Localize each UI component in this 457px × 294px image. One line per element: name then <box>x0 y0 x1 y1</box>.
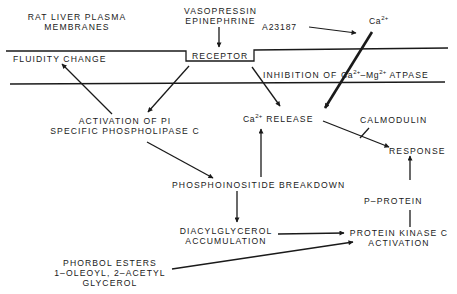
diagram-title: RAT LIVER PLASMA MEMBRANES <box>22 12 132 32</box>
inhibition-prefix: INHIBITION OF <box>263 70 341 80</box>
arrow-ionophore-to-calcium <box>309 27 356 33</box>
ca-release-ca: Ca <box>243 114 255 124</box>
phorbol-line-1: PHORBOL ESTERS <box>50 258 170 268</box>
arrow-phorbol-to-pkc <box>172 242 353 269</box>
title-line-2: MEMBRANES <box>22 22 132 32</box>
pi-plc-line-1: ACTIVATION OF PI <box>50 116 200 126</box>
signaling-pathway-diagram: RAT LIVER PLASMA MEMBRANES VASOPRESSIN E… <box>0 0 457 294</box>
arrow-plc-to-fluidity <box>62 64 112 114</box>
pi-plc-node: ACTIVATION OF PI SPECIFIC PHOSPHOLIPASE … <box>50 116 200 136</box>
hormone-epinephrine: EPINEPHRINE <box>183 16 258 26</box>
inhibition-ca-charge: 2+ <box>353 69 360 75</box>
response-node: RESPONSE <box>389 146 446 156</box>
pkc-line-1: PROTEIN KINASE C <box>339 228 457 238</box>
dag-line-2: ACCUMULATION <box>172 236 280 246</box>
arrow-dag-to-pkc <box>278 233 344 234</box>
hormones-label: VASOPRESSIN EPINEPHRINE <box>183 6 258 26</box>
dag-node: DIACYLGLYCEROL ACCUMULATION <box>172 226 280 246</box>
p-protein-node: P–PROTEIN <box>364 196 423 206</box>
pkc-line-2: ACTIVATION <box>339 238 457 248</box>
inhibition-mg: –Mg <box>361 70 380 80</box>
hormone-vasopressin: VASOPRESSIN <box>183 6 258 16</box>
calcium-label: Ca2+ <box>369 16 389 26</box>
membrane-inner-line <box>10 82 445 84</box>
ca-release-node: Ca2+ RELEASE <box>243 114 314 124</box>
calmodulin-node: CALMODULIN <box>360 115 427 125</box>
fluidity-change-label: FLUIDITY CHANGE <box>13 54 107 64</box>
pi-plc-line-2: SPECIFIC PHOSPHOLIPASE C <box>50 126 200 136</box>
title-line-1: RAT LIVER PLASMA <box>22 12 132 22</box>
calcium-charge: 2+ <box>381 15 388 21</box>
receptor-label: RECEPTOR <box>192 51 248 61</box>
phorbol-node: PHORBOL ESTERS 1–OLEOYL, 2–ACETYL GLYCER… <box>50 258 170 288</box>
ca-release-text: RELEASE <box>266 114 313 124</box>
phorbol-line-2: 1–OLEOYL, 2–ACETYL <box>50 268 170 278</box>
inhibition-mg-charge: 2+ <box>379 69 386 75</box>
arrow-receptor-to-plc <box>148 66 189 112</box>
ca-release-charge: 2+ <box>255 113 262 119</box>
line-calmodulin-to-response <box>360 128 369 138</box>
pkc-node: PROTEIN KINASE C ACTIVATION <box>339 228 457 248</box>
inhibition-suffix: ATPASE <box>387 70 429 80</box>
dag-line-1: DIACYLGLYCEROL <box>172 226 280 236</box>
calcium-base: Ca <box>369 16 381 26</box>
ionophore-label: A23187 <box>262 22 297 32</box>
pi-breakdown-node: PHOSPHOINOSITIDE BREAKDOWN <box>172 180 345 190</box>
phorbol-line-3: GLYCEROL <box>50 278 170 288</box>
inhibition-ca: Ca <box>341 70 353 80</box>
atpase-inhibition-label: INHIBITION OF Ca2+–Mg2+ ATPASE <box>263 70 429 80</box>
arrow-plc-to-breakdown <box>147 142 213 178</box>
